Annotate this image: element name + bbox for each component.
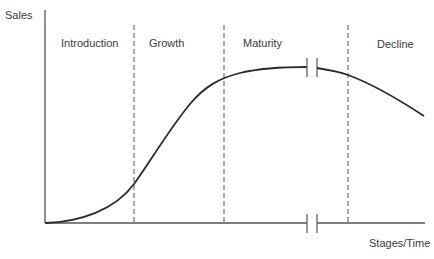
y-axis-label: Sales xyxy=(5,9,33,21)
stage-label-introduction: Introduction xyxy=(61,37,118,49)
stage-label-growth: Growth xyxy=(149,37,184,49)
sales-curve-right xyxy=(317,68,424,116)
stage-label-decline: Decline xyxy=(377,38,414,50)
x-axis-label: Stages/Time xyxy=(369,237,430,249)
sales-curve-left xyxy=(45,67,307,223)
stage-label-maturity: Maturity xyxy=(243,37,282,49)
